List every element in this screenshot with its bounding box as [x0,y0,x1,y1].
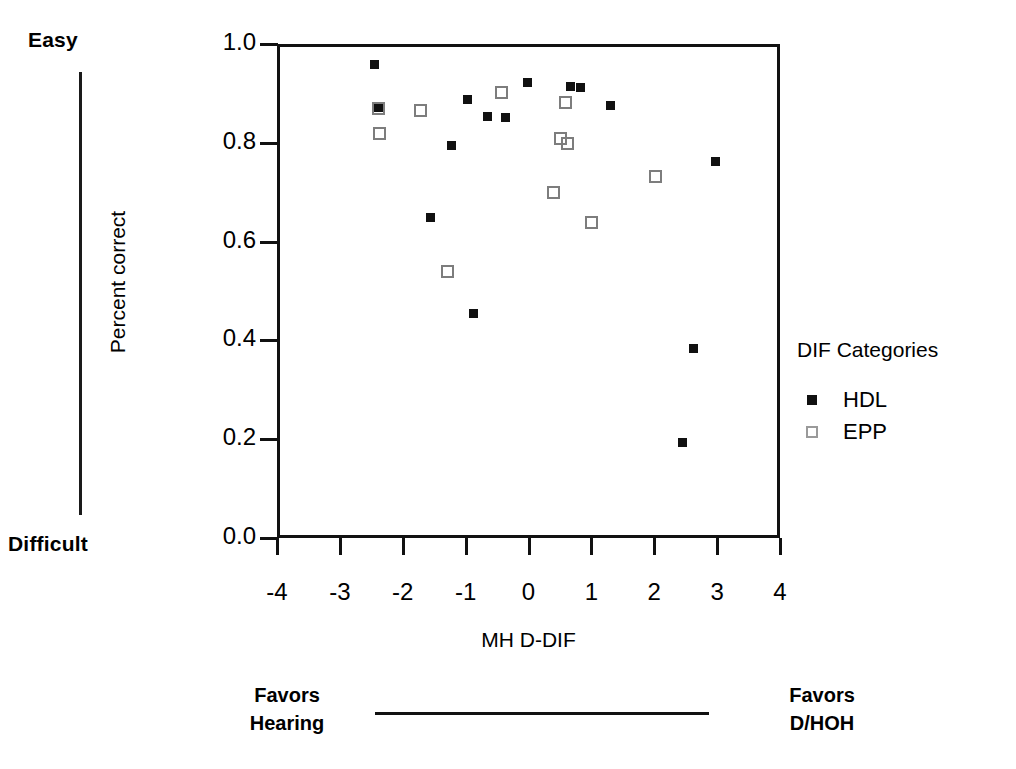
legend-entry-epp: EPP [797,416,997,448]
data-point-epp [585,216,598,229]
data-point-hdl [469,309,478,318]
favors-direction-line [375,712,709,715]
x-tick-mark [402,538,405,555]
favors-dhoh-line2: D/HOH [752,709,892,737]
legend-label-hdl: HDL [843,387,887,413]
y-tick-mark [260,241,278,244]
favors-hearing-line2: Hearing [222,709,352,737]
data-point-hdl [711,157,720,166]
x-tick-mark [339,538,342,555]
legend-entry-hdl: HDL [797,384,997,416]
data-point-epp [561,137,574,150]
data-point-hdl [426,213,435,222]
data-point-hdl [463,95,472,104]
favors-hearing-label: Favors Hearing [222,681,352,737]
filled-square-icon [797,395,827,405]
data-point-epp [559,96,572,109]
plot-data-area [280,47,777,535]
data-point-hdl [689,344,698,353]
x-tick-mark [653,538,656,555]
x-tick-label: 0 [507,578,551,606]
x-tick-label: 2 [632,578,676,606]
easy-label: Easy [28,28,78,52]
x-tick-label: 3 [695,578,739,606]
data-point-hdl [501,113,510,122]
y-tick-label: 1.0 [196,28,256,56]
data-point-hdl [606,101,615,110]
x-tick-mark [465,538,468,555]
favors-dhoh-label: Favors D/HOH [752,681,892,737]
x-tick-label: -3 [318,578,362,606]
data-point-hdl [566,82,575,91]
scatter-plot-figure: Easy Difficult Percent correct 0.00.20.4… [0,0,1016,769]
data-point-epp [547,186,560,199]
y-tick-label: 0.0 [196,522,256,550]
x-tick-label: -4 [255,578,299,606]
x-tick-mark [779,538,782,555]
favors-dhoh-line1: Favors [752,681,892,709]
data-point-hdl [523,78,532,87]
data-point-hdl [370,60,379,69]
data-point-epp [441,265,454,278]
y-tick-mark [260,438,278,441]
open-square-icon [797,426,827,438]
x-tick-mark [276,538,279,555]
x-tick-mark [590,538,593,555]
data-point-epp [373,127,386,140]
y-tick-label: 0.6 [196,226,256,254]
x-tick-label: -2 [381,578,425,606]
x-tick-label: 1 [569,578,613,606]
favors-hearing-line1: Favors [222,681,352,709]
difficulty-axis-line [79,72,82,515]
data-point-epp [495,86,508,99]
y-tick-mark [260,43,278,46]
y-tick-label: 0.2 [196,423,256,451]
y-axis-title: Percent correct [106,152,130,412]
x-tick-label: 4 [758,578,802,606]
plot-frame [277,44,780,538]
data-point-epp [414,104,427,117]
difficult-label: Difficult [8,532,88,556]
legend-label-epp: EPP [843,419,887,445]
x-tick-mark [528,538,531,555]
y-tick-mark [260,142,278,145]
x-axis-title: MH D-DIF [277,628,780,652]
legend-title: DIF Categories [797,338,997,362]
data-point-hdl [447,141,456,150]
data-point-hdl [576,83,585,92]
y-tick-label: 0.8 [196,127,256,155]
data-point-hdl [678,438,687,447]
y-tick-mark [260,339,278,342]
y-tick-label: 0.4 [196,324,256,352]
data-point-epp [372,102,385,115]
legend: DIF Categories HDL EPP [797,338,997,448]
data-point-hdl [483,112,492,121]
data-point-epp [649,170,662,183]
x-tick-mark [716,538,719,555]
x-tick-label: -1 [444,578,488,606]
